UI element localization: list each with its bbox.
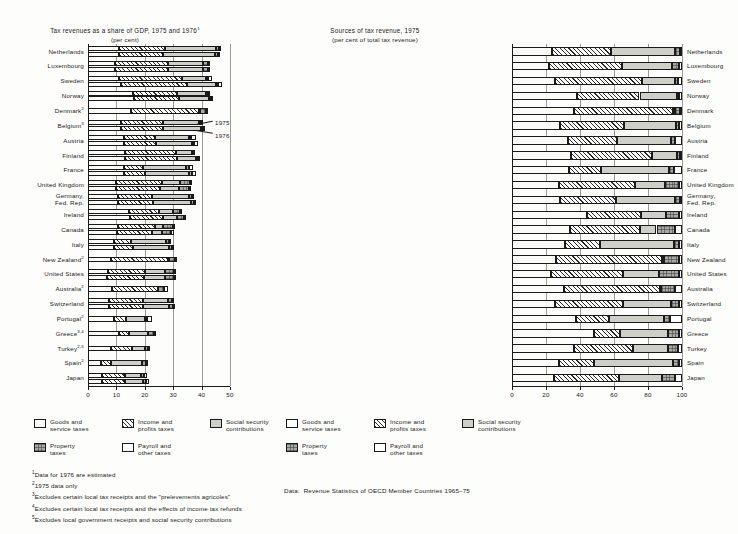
bar-segment-social: [600, 240, 675, 248]
bar-1975: [512, 47, 682, 55]
bar-segment-social: [635, 181, 665, 189]
bar-segment-goods: [512, 62, 549, 70]
country-label: Sweden: [687, 77, 738, 84]
bar-segment-social: [611, 47, 675, 55]
footnote-3: 3Excludes certain local tax receipts and…: [32, 492, 230, 501]
x-axis-tick: [546, 387, 547, 390]
bar-segment-payroll: [680, 151, 682, 159]
bar-segment-income: [574, 107, 673, 115]
country-label: Spain: [687, 359, 738, 366]
country-label: Italy: [687, 241, 738, 248]
bar-segment-social: [594, 359, 672, 367]
country-label: Australia: [687, 285, 738, 292]
bar-segment-property: [661, 285, 675, 293]
country-label: Switzerland: [687, 300, 738, 307]
bar-segment-goods: [512, 121, 560, 129]
bar-segment-social: [617, 136, 671, 144]
bar-segment-payroll: [679, 121, 682, 129]
x-axis-tick-label: 80: [636, 391, 660, 398]
bar-1975: [512, 121, 682, 129]
bar-1975: [512, 107, 682, 115]
country-label: Turkey: [687, 345, 738, 352]
country-label: New Zealand: [687, 256, 738, 263]
bar-segment-payroll: [674, 166, 682, 174]
bar-segment-payroll: [679, 240, 682, 248]
bar-segment-income: [559, 359, 595, 367]
bar-segment-payroll: [679, 92, 682, 100]
bar-segment-payroll: [680, 196, 682, 204]
bar-segment-property: [666, 211, 679, 219]
country-label: Portugal: [687, 315, 738, 322]
bar-1975: [512, 344, 682, 352]
x-axis-tick-label: 60: [602, 391, 626, 398]
bar-segment-payroll: [675, 374, 682, 382]
bar-segment-property: [672, 62, 679, 70]
bar-1975: [512, 62, 682, 70]
bar-segment-goods: [512, 374, 554, 382]
bar-segment-property: [673, 359, 680, 367]
bar-segment-social: [642, 77, 675, 85]
bar-segment-property: [662, 374, 676, 382]
x-axis-tick-label: 0: [500, 391, 524, 398]
bar-1975: [512, 255, 682, 263]
bar-segment-goods: [512, 181, 559, 189]
bar-segment-goods: [512, 270, 551, 278]
bar-segment-goods: [512, 47, 552, 55]
x-axis-tick: [614, 387, 615, 390]
country-label: France: [687, 166, 738, 173]
bar-segment-income: [549, 62, 621, 70]
country-label: Luxembourg: [687, 62, 738, 69]
bar-segment-payroll: [678, 344, 682, 352]
bar-segment-goods: [512, 166, 569, 174]
bar-segment-goods: [512, 136, 568, 144]
bar-segment-goods: [512, 255, 556, 263]
bar-segment-social: [652, 151, 677, 159]
bar-segment-payroll: [679, 62, 682, 70]
bar-segment-income: [571, 151, 653, 159]
bar-segment-social: [623, 270, 659, 278]
bar-segment-income: [576, 315, 609, 323]
bar-1975: [512, 300, 682, 308]
bar-segment-income: [565, 240, 600, 248]
bar-segment-payroll: [679, 255, 682, 263]
bar-segment-goods: [512, 225, 570, 233]
bar-segment-payroll: [680, 47, 682, 55]
country-label: Finland: [687, 152, 738, 159]
bar-segment-goods: [512, 344, 574, 352]
bar-segment-income: [564, 285, 660, 293]
bar-segment-payroll: [675, 285, 682, 293]
bar-segment-goods: [512, 300, 555, 308]
country-label: Greece: [687, 330, 738, 337]
bar-segment-goods: [512, 240, 565, 248]
bar-segment-payroll: [680, 107, 682, 115]
bar-segment-social: [620, 329, 668, 337]
bar-segment-payroll: [679, 270, 682, 278]
country-label: Netherlands: [687, 48, 738, 55]
bar-segment-social: [616, 196, 676, 204]
bar-segment-property: [659, 270, 679, 278]
bar-1975: [512, 196, 682, 204]
source-text: Revenue Statistics of OECD Member Countr…: [304, 487, 470, 494]
bar-segment-income: [552, 47, 612, 55]
bar-segment-property: [671, 300, 680, 308]
bar-segment-income: [560, 121, 624, 129]
x-axis-tick: [580, 387, 581, 390]
country-label: United States: [687, 270, 738, 277]
bar-segment-social: [622, 62, 672, 70]
bar-1975: [512, 225, 682, 233]
bar-1975: [512, 92, 682, 100]
bar-segment-property: [668, 344, 677, 352]
bar-1975: [512, 240, 682, 248]
country-label: Ireland: [687, 211, 738, 218]
bar-segment-income: [551, 270, 623, 278]
bar-segment-goods: [512, 77, 555, 85]
bar-segment-property: [668, 329, 679, 337]
bar-segment-income: [556, 255, 661, 263]
bar-segment-income: [568, 136, 617, 144]
bar-segment-payroll: [679, 211, 682, 219]
footnote-2: 21975 data only: [32, 481, 77, 490]
bar-segment-goods: [512, 359, 559, 367]
bar-segment-payroll: [670, 315, 682, 323]
gridline: [682, 44, 683, 386]
bar-segment-income: [555, 77, 642, 85]
